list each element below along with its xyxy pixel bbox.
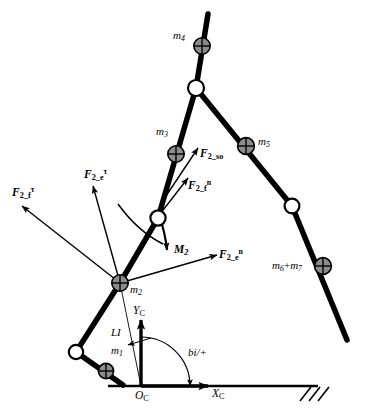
mass-marker-m4 <box>194 38 210 54</box>
force-label-F2-f-tau-sup: τ <box>31 185 35 194</box>
force-label-F2-so: F2_so <box>200 148 223 162</box>
mass-label-m1-sub: 1 <box>119 349 123 358</box>
force-label-F2-e-tau-base: F <box>84 168 92 180</box>
mass-marker-m6-m7 <box>315 258 332 275</box>
ground-hatching <box>300 387 329 401</box>
angle-arc-group <box>141 337 190 386</box>
mass-label-m6-base: m <box>272 259 280 271</box>
mass-label-m2-base: m <box>130 283 138 295</box>
axis-label-Xc: XC <box>212 388 225 402</box>
mass-label-m7-base: m <box>290 259 298 271</box>
mass-marker-m1 <box>98 363 113 378</box>
force-label-F2-e-tau: F2_eτ <box>84 168 107 183</box>
mass-label-m4-sub: 4 <box>181 34 185 43</box>
mass-marker-m3 <box>168 146 184 162</box>
mass-marker-m5 <box>238 138 255 155</box>
mass-label-m4-base: m <box>173 29 181 41</box>
li-dimension-group <box>120 283 151 386</box>
force-label-F2-f-n-base: F <box>188 179 196 191</box>
force-label-F2-f-tau: F2_fτ <box>12 186 34 201</box>
angle-arc <box>141 337 190 386</box>
force-label-F2-f-n-sub: 2_f <box>196 184 207 193</box>
moment-label-M2-sub: 2 <box>184 248 188 257</box>
force-label-F2-so-sub: 2_so <box>208 152 224 161</box>
force-label-F2-e-n-sub: 2_e <box>227 253 239 262</box>
li-line <box>120 283 141 386</box>
force-vector-F2-f-tau <box>22 206 120 283</box>
joint-upper <box>188 80 204 96</box>
force-label-F2-e-n: F2_en <box>219 248 243 263</box>
force-vector-F2-e-tau <box>93 186 120 283</box>
mass-label-m5: m5 <box>258 136 270 149</box>
mass-label-m4: m4 <box>173 30 185 43</box>
mass-label-m5-base: m <box>258 135 266 147</box>
joint-right <box>285 199 300 214</box>
mass-label-m7-sub: 7 <box>298 264 302 273</box>
axis-label-Oc-sub: C <box>143 394 149 403</box>
mass-label-m3-base: m <box>156 125 164 137</box>
link-joint1-to-m2 <box>76 283 120 352</box>
moment-label-M2: M2 <box>174 244 188 258</box>
joint-middle <box>150 210 165 225</box>
axis-label-Xc-sub: C <box>219 392 225 401</box>
force-vectors <box>22 148 217 283</box>
force-label-F2-e-tau-sup: τ <box>104 167 108 176</box>
mass-label-m2-sub: 2 <box>138 288 142 297</box>
param-label-li: LI <box>111 327 121 338</box>
moment-label-M2-base: M <box>174 243 184 255</box>
diagram-canvas <box>0 0 366 416</box>
axis-label-Xc-base: X <box>212 387 219 399</box>
joint-lower-left <box>69 345 83 359</box>
force-label-F2-e-tau-sub: 2_e <box>92 173 104 182</box>
mass-label-m5-sub: 5 <box>266 140 270 149</box>
mass-label-m3: m3 <box>156 126 168 139</box>
force-label-F2-e-n-sup: n <box>239 247 243 256</box>
mass-label-m1-base: m <box>111 344 119 356</box>
force-label-F2-f-n-sup: n <box>207 178 211 187</box>
mass-label-m2: m2 <box>130 284 142 297</box>
param-label-angle: bi/+ <box>188 347 207 358</box>
mass-label-m1: m1 <box>111 345 123 358</box>
mechanism-diagram: m4 m3 m5 m6+m7 m2 m1 F2_fτ F2_eτ F2_so F… <box>0 0 366 416</box>
axis-label-Yc-sub: C <box>139 309 145 318</box>
mass-label-m3-sub: 3 <box>164 130 168 139</box>
force-label-F2-f-n: F2_fn <box>188 179 211 194</box>
mass-marker-m2 <box>112 275 128 291</box>
force-label-F2-f-tau-sub: 2_f <box>20 191 31 200</box>
force-label-F2-e-n-base: F <box>219 248 227 260</box>
force-label-F2-so-base: F <box>200 147 208 159</box>
force-label-F2-f-tau-base: F <box>12 186 20 198</box>
axis-label-Yc: YC <box>133 305 145 319</box>
axis-label-Oc: OC <box>135 390 149 404</box>
mass-label-m6-m7: m6+m7 <box>272 260 302 273</box>
